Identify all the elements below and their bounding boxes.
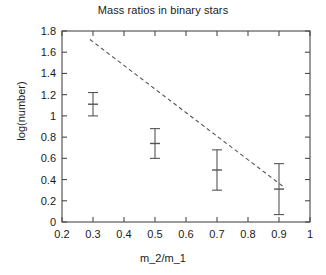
x-tick-label: 0.3	[85, 228, 100, 240]
y-tick-label: 0.8	[41, 131, 56, 143]
x-tick-label: 0.2	[54, 228, 69, 240]
y-tick-label: 1	[50, 110, 56, 122]
error-bar	[212, 150, 222, 190]
x-tick-label: 1	[307, 228, 313, 240]
x-tick-label: 0.5	[147, 228, 162, 240]
y-tick-label: 0.2	[41, 195, 56, 207]
y-tick-label: 0.6	[41, 152, 56, 164]
x-tick-label: 0.4	[116, 228, 131, 240]
y-tick-label: 0.4	[41, 174, 56, 186]
chart-root: Mass ratios in binary stars log(number) …	[0, 0, 326, 275]
y-tick-label: 1.8	[41, 25, 56, 37]
x-tick-label: 0.9	[271, 228, 286, 240]
error-bar	[274, 164, 284, 215]
plot-area: 0.20.30.40.50.60.70.80.9100.20.40.60.811…	[0, 0, 326, 275]
trend-line	[90, 39, 285, 188]
error-bar	[150, 129, 160, 159]
x-tick-label: 0.6	[178, 228, 193, 240]
x-tick-label: 0.8	[240, 228, 255, 240]
axis-frame	[62, 31, 310, 222]
x-tick-label: 0.7	[209, 228, 224, 240]
y-tick-label: 0	[50, 216, 56, 228]
y-tick-label: 1.4	[41, 67, 56, 79]
error-bar	[88, 93, 98, 116]
y-tick-label: 1.2	[41, 89, 56, 101]
y-tick-label: 1.6	[41, 46, 56, 58]
